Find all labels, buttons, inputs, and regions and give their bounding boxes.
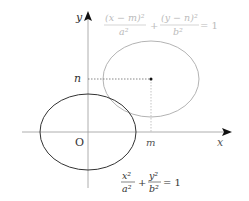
- original-den1: a²: [122, 183, 132, 194]
- original-num2: y²: [148, 170, 158, 181]
- original-num1: x²: [122, 170, 131, 181]
- ellipse-translation-diagram: y x O m n (x − m)² a² + (y − n)² b² = 1 …: [0, 0, 249, 201]
- original-den2: b²: [149, 183, 159, 194]
- translated-num1: (x − m)²: [105, 12, 145, 23]
- original-plus: +: [138, 177, 146, 188]
- center-point: [150, 78, 153, 81]
- original-equation: x² a² + y² b² = 1: [121, 170, 181, 194]
- original-equals: = 1: [163, 177, 181, 188]
- translated-plus: +: [150, 20, 158, 31]
- origin-label: O: [75, 136, 84, 149]
- translated-den2: b²: [173, 26, 183, 37]
- translated-den1: a²: [119, 26, 129, 37]
- translated-num2: (y − n)²: [161, 12, 198, 23]
- x-axis-label: x: [217, 136, 224, 149]
- n-label: n: [74, 72, 81, 85]
- m-label: m: [146, 137, 155, 148]
- y-axis-label: y: [75, 11, 83, 24]
- translated-equation: (x − m)² a² + (y − n)² b² = 1: [104, 12, 218, 37]
- translated-equals: = 1: [200, 20, 218, 31]
